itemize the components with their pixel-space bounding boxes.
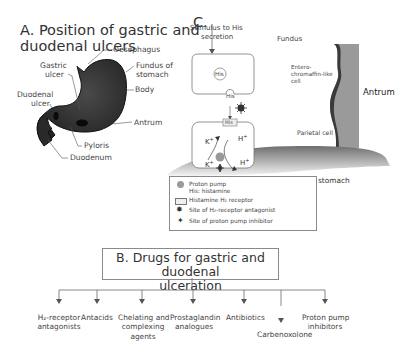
drug-prostaglandin-analogues: Prostaglandinanalogues <box>170 313 218 332</box>
label-duodenal-line2: ulcer <box>31 100 50 108</box>
h-plus-top: H+ <box>238 134 247 144</box>
stimulus-label-line1: Stimulus to His <box>190 25 243 33</box>
parietal-cell-label: Parietal cell <box>297 130 333 137</box>
star-icon: ✦ <box>177 216 184 225</box>
drug-antacids: Antacids <box>79 313 115 322</box>
ecl-label-line2: chromaffin-like <box>291 71 333 78</box>
drug-proton-pump-inhibitors: Proton pumpinhibitors <box>302 313 348 332</box>
his-in-cell: His <box>215 71 224 78</box>
duodenal-ulcer-mark <box>54 112 59 120</box>
label-gastric-line2: ulcer <box>45 71 64 79</box>
burst-icon: ✸ <box>176 205 183 214</box>
h2-antagonist-site-icon <box>235 102 247 114</box>
k-plus-bottom: K+ <box>205 160 214 170</box>
h-plus-bottom: H+ <box>240 158 249 168</box>
label-body: Body <box>135 86 154 94</box>
ecl-label-line3: cell <box>291 78 301 85</box>
label-pyloris: Pyloris <box>84 142 109 150</box>
section-b-title-line1: B. Drugs for gastric and duodenal <box>103 251 278 279</box>
gastric-ulcer-mark <box>76 120 88 127</box>
drug-carbenoxolone: Carbenoxolone <box>257 330 307 339</box>
legend-box: Proton pump His: histamine Histamine H₂ … <box>169 176 317 231</box>
proton-pump-icon <box>177 181 184 188</box>
ecl-label-line1: Entero- <box>291 64 311 71</box>
label-oesophagus: Oesophagus <box>113 46 160 54</box>
drug-chelating-agents: Chelating andcomplexingagents <box>118 313 168 341</box>
drug-antibiotics: Antibiotics <box>226 313 264 322</box>
cell-diagram <box>160 20 415 180</box>
stimulus-label-line2: secretion <box>201 34 233 42</box>
drug-tree-connectors <box>0 276 415 306</box>
receptor-icon <box>175 198 187 205</box>
receptor-label: His <box>225 119 233 125</box>
drug-h2-antagonists: H₂-receptorantagonists <box>34 313 84 332</box>
his-label: His <box>226 93 235 100</box>
k-plus-top: K+ <box>205 137 214 147</box>
label-duodenum: Duodenum <box>70 154 112 162</box>
antrum-label: Antrum <box>363 88 395 97</box>
fundus-label: Fundus <box>277 36 302 44</box>
label-antrum: Antrum <box>134 119 162 127</box>
